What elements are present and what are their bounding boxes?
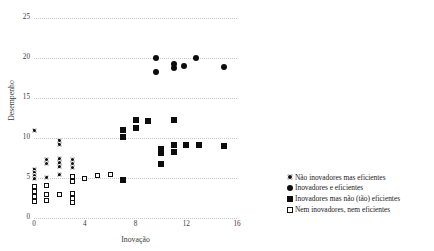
legend-item-label: Não inovadores mas eficientes	[295, 174, 386, 181]
data-point	[57, 142, 62, 147]
legend-item-label: Inovadores mas não (tão) eficientes	[295, 195, 400, 202]
legend-item-label: Nem inovadores, nem eficientes	[295, 206, 390, 213]
data-point	[171, 149, 177, 155]
plot-area	[34, 18, 237, 218]
x-tick-label: 16	[225, 221, 249, 228]
circle-with-dot-icon	[287, 174, 293, 180]
y-tick-label: 25	[4, 14, 30, 21]
legend-item[interactable]: Não inovadores mas eficientes	[286, 172, 434, 183]
data-point	[44, 192, 49, 197]
data-point	[44, 183, 49, 188]
legend-marker-icon	[286, 206, 294, 214]
data-point	[70, 165, 75, 170]
legend-marker-icon	[286, 184, 294, 192]
data-point	[108, 172, 113, 177]
data-point	[153, 69, 159, 75]
data-point	[32, 128, 37, 133]
data-point	[70, 200, 75, 205]
data-point	[171, 65, 177, 71]
x-tick-label: 4	[73, 221, 97, 228]
data-point	[70, 179, 75, 184]
data-point	[171, 142, 177, 148]
data-point	[44, 161, 49, 166]
x-tick-label: 12	[174, 221, 198, 228]
data-point	[44, 175, 49, 180]
data-point	[133, 125, 139, 131]
x-axis-ticks: 0481216	[34, 221, 237, 233]
legend-item[interactable]: Inovadores e eficientes	[286, 183, 434, 194]
gridline	[34, 218, 237, 219]
data-point	[158, 150, 164, 156]
data-point	[171, 117, 177, 123]
data-point	[158, 161, 164, 167]
data-point	[44, 198, 49, 203]
x-tick-label: 8	[124, 221, 148, 228]
legend-item[interactable]: Inovadores mas não (tão) eficientes	[286, 194, 434, 205]
y-axis-label-holder: Desempenho	[0, 0, 1, 1]
x-axis-label: Inovação	[34, 235, 237, 244]
legend-marker-icon	[286, 173, 294, 181]
data-point	[133, 117, 139, 123]
y-tick-label: 5	[4, 174, 30, 181]
scatter-chart: 0510152025 Desempenho 0481216 Inovação N…	[0, 0, 434, 251]
data-point	[153, 55, 159, 61]
data-point	[181, 63, 187, 69]
gridline	[34, 18, 237, 19]
data-point	[82, 176, 87, 181]
filled-circle-icon	[287, 185, 294, 192]
data-point	[32, 199, 37, 204]
data-point	[193, 55, 199, 61]
data-point	[95, 173, 100, 178]
gridline	[34, 178, 237, 179]
legend-marker-icon	[286, 195, 294, 203]
open-square-icon	[287, 207, 294, 214]
data-point	[145, 118, 151, 124]
legend-item[interactable]: Nem inovadores, nem eficientes	[286, 204, 434, 215]
data-point	[57, 172, 62, 177]
data-point	[32, 176, 37, 181]
data-point	[120, 177, 126, 183]
x-tick-label: 0	[22, 221, 46, 228]
gridline	[34, 138, 237, 139]
data-point	[221, 143, 227, 149]
data-point	[57, 192, 62, 197]
data-point	[120, 127, 126, 133]
data-point	[221, 64, 227, 70]
filled-square-icon	[287, 196, 294, 203]
gridline	[34, 98, 237, 99]
data-point	[57, 164, 62, 169]
chart-legend: Não inovadores mas eficientesInovadores …	[286, 172, 434, 215]
y-axis-label: Desempenho	[7, 46, 16, 156]
legend-item-label: Inovadores e eficientes	[295, 184, 363, 191]
gridline	[34, 58, 237, 59]
data-point	[183, 142, 189, 148]
data-point	[120, 134, 126, 140]
data-point	[196, 142, 202, 148]
